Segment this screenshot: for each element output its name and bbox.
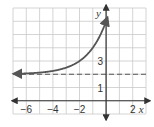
y-tick-label: 3	[98, 56, 104, 67]
exponential-curve	[14, 17, 108, 73]
x-tick-labels: −6−4−22	[21, 104, 136, 115]
x-tick-label: −4	[47, 104, 59, 115]
x-tick-label: 2	[130, 104, 136, 115]
y-axis-label: y	[95, 7, 101, 19]
x-tick-label: −2	[74, 104, 86, 115]
exponential-graph: −6−4−22 13 x y	[0, 0, 154, 127]
x-axis-label: x	[138, 103, 144, 115]
x-tick-label: −6	[21, 104, 33, 115]
y-tick-label: 1	[98, 83, 104, 94]
